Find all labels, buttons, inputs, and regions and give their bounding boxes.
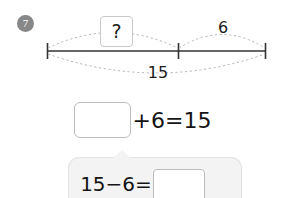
total-label: 15 bbox=[145, 63, 171, 82]
hint-expression: 15−6= bbox=[80, 172, 152, 196]
hint-callout-arrow-icon bbox=[114, 151, 130, 158]
question-mark-icon: ? bbox=[101, 17, 132, 46]
equation-expression: +6=15 bbox=[133, 108, 212, 133]
worksheet-page: 7 6 15 ? +6=15 15−6= bbox=[0, 0, 285, 198]
hint-answer-input-box[interactable] bbox=[153, 169, 205, 198]
unknown-value-box[interactable]: ? bbox=[100, 16, 133, 47]
equation-row: +6=15 bbox=[0, 98, 285, 142]
right-part-label: 6 bbox=[215, 18, 231, 37]
number-line-diagram bbox=[0, 0, 285, 95]
hint-row: 15−6= bbox=[0, 170, 285, 198]
answer-input-box[interactable] bbox=[74, 102, 131, 138]
